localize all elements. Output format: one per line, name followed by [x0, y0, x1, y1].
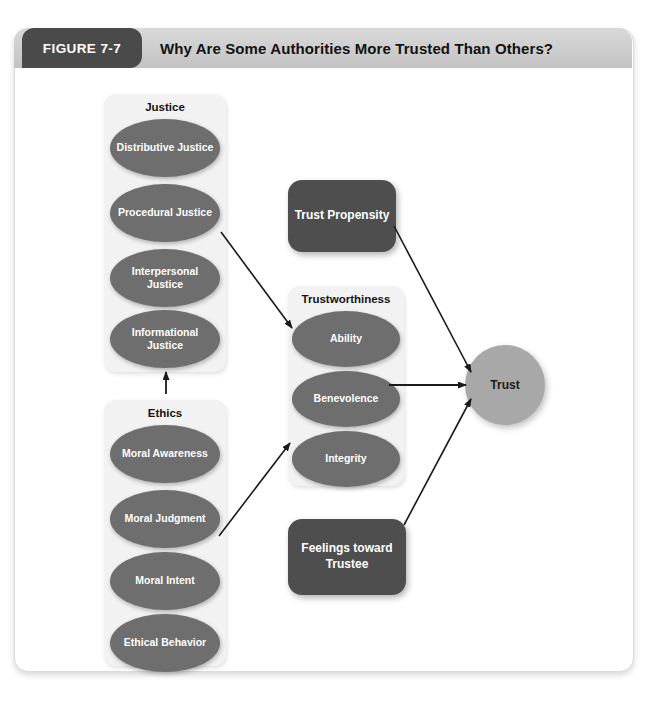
node-informational-justice[interactable]: Informational Justice — [110, 310, 220, 368]
node-label: Interpersonal Justice — [110, 265, 220, 291]
page-title: Why Are Some Authorities More Trusted Th… — [160, 28, 553, 68]
figure-number-label: FIGURE 7-7 — [43, 41, 121, 56]
node-moral-judgment[interactable]: Moral Judgment — [110, 490, 220, 548]
figure-number-tag: FIGURE 7-7 — [22, 28, 142, 68]
group-label-ethics: Ethics — [104, 407, 226, 419]
node-ethical-behavior[interactable]: Ethical Behavior — [110, 614, 220, 672]
group-label-trustworthiness: Trustworthiness — [288, 293, 404, 305]
node-trust-propensity[interactable]: Trust Propensity — [288, 180, 396, 252]
node-label: Moral Awareness — [116, 447, 214, 460]
node-label: Procedural Justice — [112, 206, 218, 219]
node-label: Feelings toward Trustee — [288, 541, 406, 572]
node-label: Trust — [490, 378, 519, 392]
node-procedural-justice[interactable]: Procedural Justice — [110, 184, 220, 242]
node-label: Moral Intent — [129, 574, 201, 587]
node-label: Ability — [324, 332, 368, 345]
node-label: Benevolence — [308, 392, 385, 405]
node-distributive-justice[interactable]: Distributive Justice — [110, 119, 220, 177]
node-label: Ethical Behavior — [118, 636, 212, 649]
node-benevolence[interactable]: Benevolence — [292, 371, 400, 427]
node-label: Moral Judgment — [118, 512, 211, 525]
node-moral-awareness[interactable]: Moral Awareness — [110, 425, 220, 483]
node-moral-intent[interactable]: Moral Intent — [110, 552, 220, 610]
node-label: Distributive Justice — [111, 141, 220, 154]
node-label: Integrity — [319, 452, 372, 465]
node-interpersonal-justice[interactable]: Interpersonal Justice — [110, 249, 220, 307]
node-integrity[interactable]: Integrity — [292, 431, 400, 487]
node-feelings-toward-trustee[interactable]: Feelings toward Trustee — [288, 519, 406, 595]
group-label-justice: Justice — [104, 101, 226, 113]
node-trust[interactable]: Trust — [465, 345, 545, 425]
node-ability[interactable]: Ability — [292, 311, 400, 367]
node-label: Trust Propensity — [295, 208, 390, 224]
node-label: Informational Justice — [110, 326, 220, 352]
